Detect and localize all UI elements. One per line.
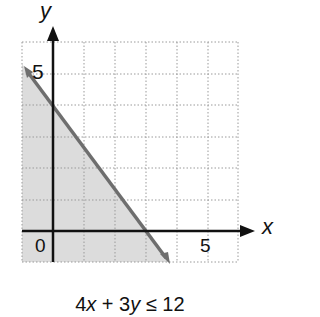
y-tick-label: 5 — [32, 60, 44, 84]
coef-a: 4 — [75, 293, 86, 315]
var-y: y — [130, 293, 140, 315]
relation-sign: ≤ — [140, 293, 162, 315]
origin-label: 0 — [35, 235, 46, 257]
coef-b: 3 — [119, 293, 130, 315]
y-axis-label: y — [40, 0, 51, 24]
y-axis-arrowhead — [47, 26, 59, 41]
var-x: x — [86, 293, 96, 315]
x-axis-arrowhead — [240, 225, 255, 237]
plus-sign: + — [96, 293, 119, 315]
constant: 12 — [162, 293, 184, 315]
inequality-caption: 4x + 3y ≤ 12 — [64, 270, 185, 316]
x-axis-label: x — [262, 214, 273, 240]
x-tick-label: 5 — [200, 235, 211, 257]
